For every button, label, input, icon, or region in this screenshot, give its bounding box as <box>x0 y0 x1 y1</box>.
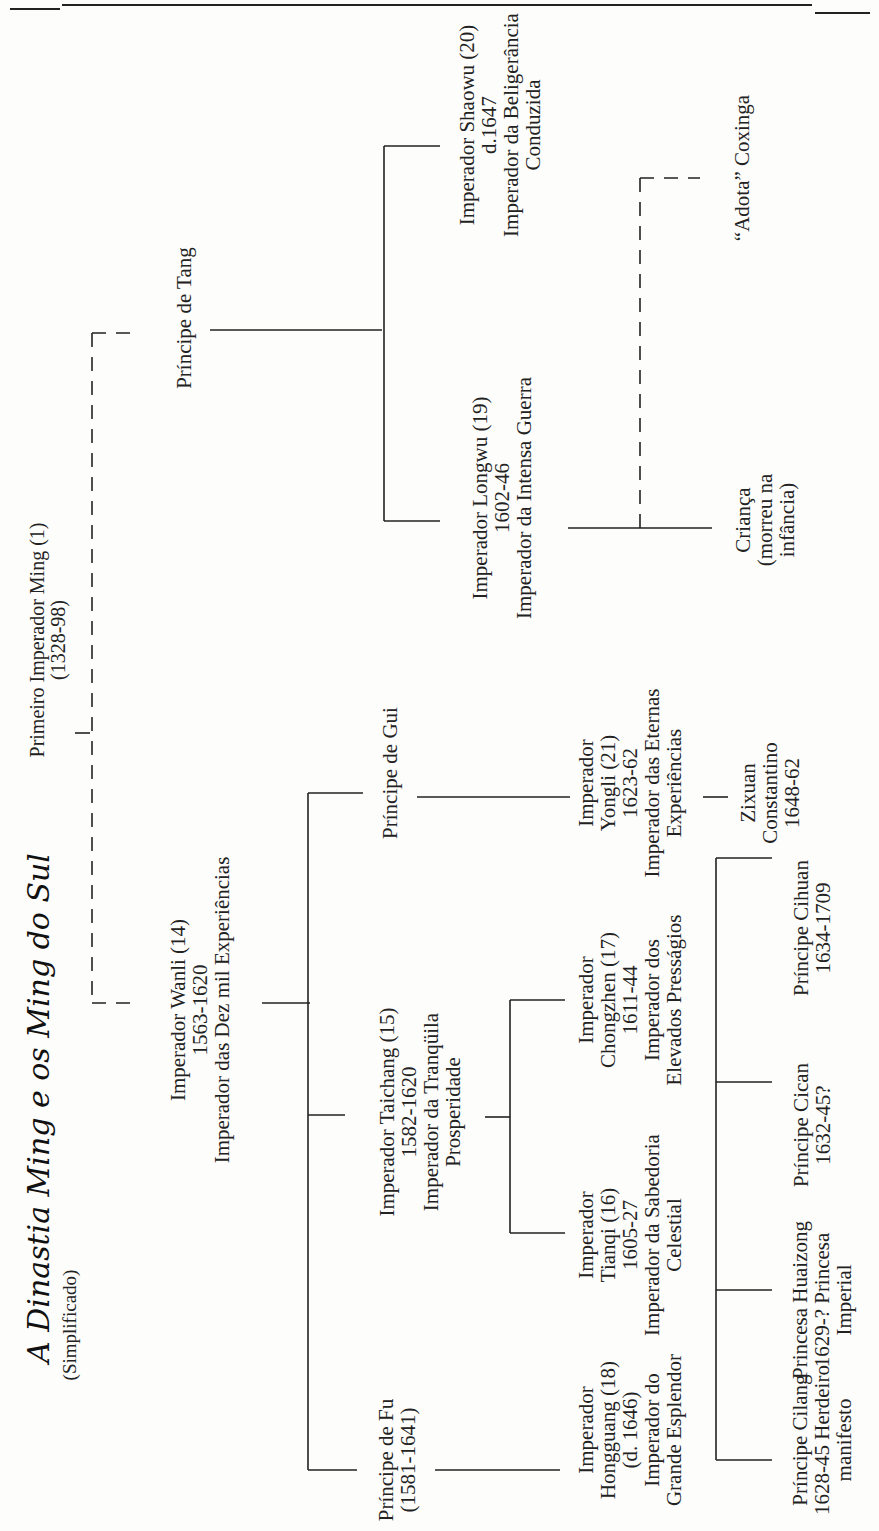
genealogy-page: A Dinastia Ming e os Ming do Sul (Simpli… <box>0 0 879 1531</box>
node-cihuan: Príncipe Cihuan 1634-1709 <box>790 860 834 996</box>
node-crianca: Criança (morreu na infância) <box>732 474 798 567</box>
node-chongzhen: Imperador Chongzhen (17) 1611-44 Imperad… <box>575 915 685 1086</box>
node-shaowu: Imperador Shaowu (20) d.1647 Imperador d… <box>456 13 544 237</box>
node-first-emperor: Primeiro Imperador Ming (1) (1328-98) <box>27 523 69 758</box>
node-cilang: Príncipe Cilang 1628-45 Herdeiro manifes… <box>789 1365 855 1515</box>
node-principe-fu: Príncipe de Fu (1581-1641) <box>375 1399 419 1521</box>
node-taichang: Imperador Taichang (15) 1582-1620 Impera… <box>376 1007 464 1216</box>
node-longwu: Imperador Longwu (19) 1602-46 Imperador … <box>469 377 535 619</box>
node-zixuan: Zixuan Constantino 1648-62 <box>737 742 803 844</box>
node-principe-gui: Príncipe de Gui <box>379 707 401 839</box>
node-wanli: Imperador Wanli (14) 1563-1620 Imperador… <box>167 857 233 1164</box>
node-huaizong: Princesa Huaizong 1629-? Princesa Imperi… <box>789 1221 855 1379</box>
node-yongli: Imperador Yongli (21) 1623-62 Imperador … <box>575 689 685 878</box>
node-tianqi: Imperador Tianqi (16) 1605-27 Imperador … <box>575 1134 685 1336</box>
node-coxinga: “Adota” Coxinga <box>731 95 753 241</box>
node-hongguang: Imperador Hongguang (18) (d. 1646) Imper… <box>575 1354 685 1506</box>
node-cican: Príncipe Cican 1632-45? <box>790 1063 834 1187</box>
diagram-title: A Dinastia Ming e os Ming do Sul <box>21 853 56 1363</box>
diagram-subtitle: (Simplificado) <box>59 1270 81 1381</box>
node-principe-tang: Príncipe de Tang <box>173 247 195 389</box>
